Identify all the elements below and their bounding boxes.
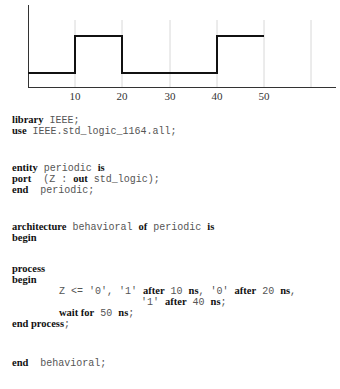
code-line-end-process: end process; bbox=[12, 318, 70, 330]
code-line-assignment-cont: '1' after 40 ns; bbox=[141, 296, 227, 308]
tick-label-50: 50 bbox=[259, 90, 271, 102]
code-line-process: process bbox=[12, 263, 45, 274]
code-line-process-begin: begin bbox=[12, 274, 37, 285]
signal-z-trace bbox=[28, 36, 264, 73]
grid-lines bbox=[75, 20, 311, 87]
tick-label-20: 20 bbox=[117, 90, 129, 102]
code-line-wait: wait for 50 ns; bbox=[59, 307, 134, 319]
waveform-diagram: 10 20 30 40 50 bbox=[0, 0, 340, 105]
code-line-end-architecture: end behavioral; bbox=[12, 357, 106, 369]
tick-label-40: 40 bbox=[212, 90, 224, 102]
code-line-end-entity: end periodic; bbox=[12, 184, 94, 196]
code-line-begin: begin bbox=[12, 232, 37, 243]
code-line-use: use IEEE.std_logic_1164.all; bbox=[12, 125, 177, 137]
tick-label-10: 10 bbox=[70, 90, 82, 102]
tick-label-30: 30 bbox=[165, 90, 177, 102]
code-line-architecture: architecture behavioral of periodic is bbox=[12, 221, 214, 233]
